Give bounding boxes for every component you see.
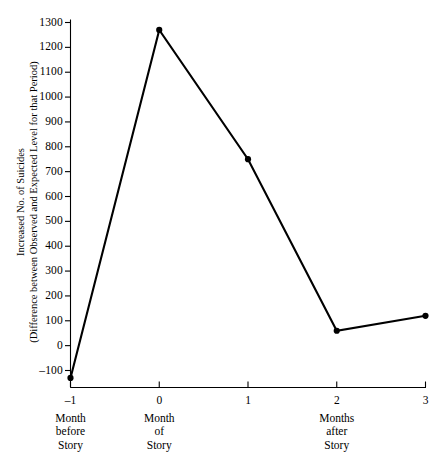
data-point-markers <box>67 27 428 381</box>
data-point-marker <box>422 313 428 319</box>
data-point-marker <box>67 375 73 381</box>
x-axis-tick-marks <box>71 382 426 388</box>
chart-container: Increased No. of Suicides (Difference be… <box>0 0 442 462</box>
data-series-line <box>71 30 426 378</box>
data-point-marker <box>245 156 251 162</box>
data-point-marker <box>334 328 340 334</box>
plot-area <box>0 0 442 462</box>
y-axis-tick-marks <box>65 23 71 371</box>
data-point-marker <box>156 27 162 33</box>
